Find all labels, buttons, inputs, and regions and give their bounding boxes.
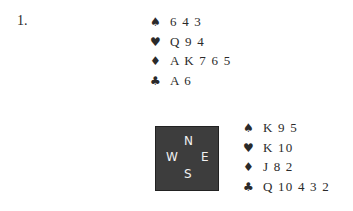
diamond-icon: ♦ (243, 158, 263, 178)
north-spades: ♠6 4 3 (150, 12, 231, 32)
compass-box: N W E S (155, 126, 219, 191)
diamond-icon: ♦ (150, 52, 170, 72)
compass-south: S (184, 167, 192, 181)
east-hearts: ♥K 10 (243, 138, 330, 158)
club-icon: ♣ (150, 72, 170, 92)
compass-east: E (201, 150, 209, 164)
east-hearts-cards: K 10 (263, 140, 293, 155)
heart-icon: ♥ (243, 139, 263, 159)
compass-west: W (166, 150, 178, 164)
north-clubs: ♣A 6 (150, 71, 231, 91)
east-clubs: ♣Q 10 4 3 2 (243, 177, 330, 197)
north-hearts-cards: Q 9 4 (170, 34, 205, 49)
north-spades-cards: 6 4 3 (170, 14, 202, 29)
north-diamonds: ♦A K 7 6 5 (150, 51, 231, 71)
club-icon: ♣ (243, 178, 263, 198)
heart-icon: ♥ (150, 33, 170, 53)
problem-number: 1. (17, 13, 28, 29)
north-hearts: ♥Q 9 4 (150, 32, 231, 52)
compass-north: N (184, 134, 193, 148)
north-clubs-cards: A 6 (170, 73, 192, 88)
spade-icon: ♠ (150, 13, 170, 33)
east-hand: ♠K 9 5 ♥K 10 ♦J 8 2 ♣Q 10 4 3 2 (243, 118, 330, 196)
east-spades: ♠K 9 5 (243, 118, 330, 138)
north-diamonds-cards: A K 7 6 5 (170, 53, 231, 68)
east-diamonds-cards: J 8 2 (263, 159, 294, 174)
east-clubs-cards: Q 10 4 3 2 (263, 179, 330, 194)
east-spades-cards: K 9 5 (263, 120, 298, 135)
north-hand: ♠6 4 3 ♥Q 9 4 ♦A K 7 6 5 ♣A 6 (150, 12, 231, 90)
east-diamonds: ♦J 8 2 (243, 157, 330, 177)
spade-icon: ♠ (243, 119, 263, 139)
